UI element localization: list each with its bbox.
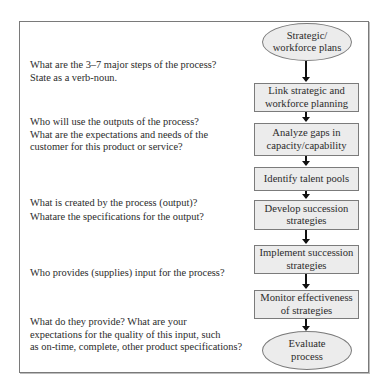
question-line: What are the expectations and needs of t…: [30, 129, 208, 142]
question-line: expectations for the quality of this inp…: [30, 329, 242, 342]
question-line: Who provides (supplies) input for the pr…: [30, 267, 225, 280]
node-label: Implement succession: [260, 247, 354, 259]
node-label: of strategies: [260, 305, 352, 317]
node-label: strategies: [260, 260, 354, 272]
step-identify-talent-pools: Identify talent pools: [254, 167, 359, 191]
question-line: What are the 3–7 major steps of the proc…: [30, 59, 216, 72]
question-suppliers: Who provides (supplies) input for the pr…: [30, 267, 225, 280]
node-label: capacity/capability: [266, 140, 346, 152]
node-label: Identify talent pools: [264, 173, 349, 185]
step-link-planning: Link strategic and workforce planning: [254, 83, 359, 112]
end-node-evaluate-process: Evaluate process: [262, 331, 352, 370]
arrow-down-icon: [305, 191, 307, 198]
node-label: workforce planning: [265, 98, 348, 110]
question-output-specs: What is created by the process (output)?…: [30, 197, 204, 223]
node-label: Develop succession: [265, 203, 349, 215]
node-label: Strategic/: [273, 30, 342, 42]
question-line: customer for this product or service?: [30, 141, 208, 154]
arrow-down-icon: [305, 230, 307, 243]
question-line: Whatare the specifications for the outpu…: [30, 211, 204, 224]
question-line: State as a verb-noun.: [30, 72, 216, 85]
node-label: Monitor effectiveness: [260, 292, 352, 304]
question-line: What is created by the process (output)?: [30, 197, 204, 210]
step-implement-succession: Implement succession strategies: [254, 245, 359, 274]
start-node-strategic-workforce-plans: Strategic/ workforce plans: [262, 23, 352, 61]
node-label: workforce plans: [273, 42, 342, 54]
question-customer-outputs: Who will use the outputs of the process?…: [30, 116, 208, 154]
node-label: Link strategic and: [265, 85, 348, 97]
question-line: What do they provide? What are your: [30, 316, 242, 329]
step-analyze-gaps: Analyze gaps in capacity/capability: [254, 123, 359, 156]
question-major-steps: What are the 3–7 major steps of the proc…: [30, 59, 216, 84]
node-label: process: [288, 351, 325, 363]
question-line: as on-time, complete, other product spec…: [30, 341, 242, 354]
node-label: strategies: [265, 215, 349, 227]
question-line: Who will use the outputs of the process?: [30, 116, 208, 129]
step-develop-succession: Develop succession strategies: [254, 200, 359, 230]
arrow-down-icon: [305, 274, 307, 288]
arrow-down-icon: [305, 112, 307, 121]
arrow-down-icon: [305, 156, 307, 165]
step-monitor-effectiveness: Monitor effectiveness of strategies: [254, 290, 359, 319]
node-label: Evaluate: [288, 338, 325, 350]
node-label: Analyze gaps in: [266, 127, 346, 139]
arrow-down-icon: [305, 61, 307, 81]
question-input-quality: What do they provide? What are your expe…: [30, 316, 242, 354]
arrow-down-icon: [305, 319, 307, 330]
